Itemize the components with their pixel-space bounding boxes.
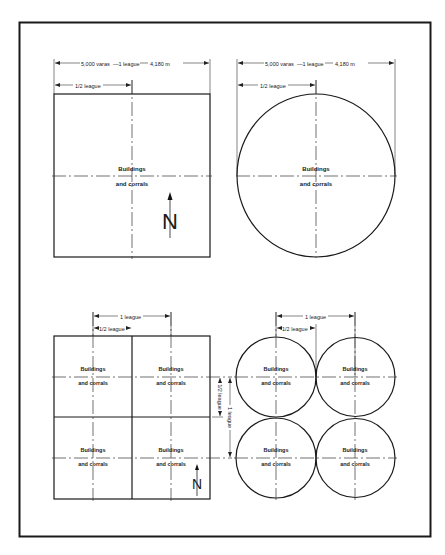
circular-parcel: 5,000 varas —1 league 4,180 m 1/2 league…: [236, 59, 397, 258]
circle-buildings-label: Buildings: [302, 166, 330, 172]
circle-overall-dim-meters: 4,180 m: [335, 61, 355, 67]
grid-one-league-label: 1 league: [120, 314, 141, 320]
circles-one-league-label: 1 league: [305, 314, 326, 320]
grid-half-league-label: 1/2 league: [99, 326, 125, 332]
square-half-dim-label: 1/2 league: [75, 83, 101, 89]
svg-text:Buildings: Buildings: [342, 366, 367, 372]
vertical-one-league-label: 1 league: [227, 407, 233, 428]
square-parcel: 5,000 varas —1 league 4,180 m 1/2 league…: [52, 59, 212, 259]
grid-cell-ne: Buildings and corrals: [156, 366, 186, 386]
svg-text:Buildings: Buildings: [158, 366, 183, 372]
grid-cell-nw: Buildings and corrals: [78, 366, 108, 386]
svg-text:and corrals: and corrals: [78, 380, 108, 386]
svg-text:and corrals: and corrals: [340, 380, 370, 386]
circle-cell-nw: Buildings and corrals: [261, 366, 291, 386]
north-label-small: N: [192, 476, 202, 492]
circle-overall-dim-league: —1 league: [297, 61, 324, 67]
square-corrals-label: and corrals: [116, 181, 149, 187]
svg-text:Buildings: Buildings: [158, 447, 183, 453]
square-buildings-label: Buildings: [118, 166, 146, 172]
square-overall-dim-meters: 4,180 m: [150, 61, 170, 67]
svg-text:Buildings: Buildings: [263, 447, 288, 453]
circle-grid: 1 league 1/2 league Buildings and corral…: [234, 312, 397, 500]
square-overall-dim-varas: 5,000 varas: [81, 61, 110, 67]
svg-text:and corrals: and corrals: [261, 380, 291, 386]
diagram-canvas: 5,000 varas —1 league 4,180 m 1/2 league…: [0, 0, 445, 555]
svg-text:Buildings: Buildings: [342, 447, 367, 453]
square-grid: 1 league 1/2 league Buildings and corral…: [52, 312, 232, 501]
vertical-dimensions: 1/2 league 1 league: [212, 378, 233, 457]
figure-frame: [20, 23, 431, 537]
square-overall-dim-league: —1 league: [113, 61, 140, 67]
circle-overall-dim-varas: 5,000 varas: [265, 61, 294, 67]
svg-text:and corrals: and corrals: [261, 461, 291, 467]
svg-text:and corrals: and corrals: [156, 380, 186, 386]
north-arrow-small-icon: N: [192, 464, 202, 496]
circle-corrals-label: and corrals: [300, 181, 333, 187]
svg-text:and corrals: and corrals: [156, 461, 186, 467]
svg-text:and corrals: and corrals: [78, 461, 108, 467]
circle-half-dim-label: 1/2 league: [260, 83, 286, 89]
svg-text:Buildings: Buildings: [263, 366, 288, 372]
svg-text:and corrals: and corrals: [340, 461, 370, 467]
north-label: N: [162, 209, 178, 234]
vertical-half-league-label: 1/2 league: [217, 384, 223, 410]
north-arrow-icon: N: [162, 192, 178, 238]
svg-text:Buildings: Buildings: [80, 447, 105, 453]
circles-half-league-label: 1/2 league: [282, 326, 308, 332]
svg-text:Buildings: Buildings: [80, 366, 105, 372]
